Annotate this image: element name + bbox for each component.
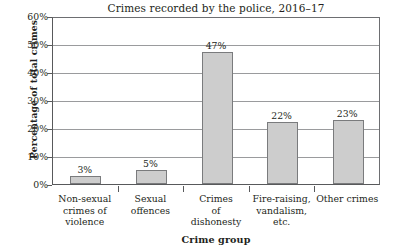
- x-axis-tick-mark: [249, 186, 250, 192]
- bar-chart-figure: Crimes recorded by the police, 2016–17 P…: [0, 0, 394, 251]
- x-axis-category-label: Crimesofdishonesty: [183, 193, 249, 228]
- bar: [333, 120, 364, 184]
- y-axis-title: Percentage of total crimes: [28, 5, 39, 175]
- x-axis-category-line: Sexual: [118, 193, 184, 205]
- y-axis-tick-mark: [47, 157, 52, 158]
- y-axis-tick-label: 50%: [4, 40, 48, 49]
- x-axis-category-line: Fire-raising,: [249, 193, 315, 205]
- y-axis-tick-label: 20%: [4, 124, 48, 133]
- y-axis-tick-mark: [47, 101, 52, 102]
- x-axis-category-line: Crimes: [183, 193, 249, 205]
- y-axis-tick-label: 10%: [4, 152, 48, 161]
- bar-value-label: 22%: [252, 111, 312, 121]
- y-axis-tick-mark: [47, 129, 52, 130]
- x-axis-category-line: etc.: [249, 216, 315, 228]
- x-axis-category-line: crimes of: [52, 205, 118, 217]
- y-axis-tick-mark: [47, 45, 52, 46]
- y-axis-tick-label: 60%: [4, 12, 48, 21]
- x-axis-category-line: Other crimes: [314, 193, 380, 205]
- x-axis-category-label: Sexualoffences: [118, 193, 184, 216]
- x-axis-title: Crime group: [52, 234, 380, 245]
- bar: [136, 170, 167, 184]
- bar-value-label: 3%: [55, 165, 115, 175]
- x-axis-tick-mark: [314, 186, 315, 192]
- x-axis-category-line: vandalism,: [249, 205, 315, 217]
- y-axis-tick-mark: [47, 185, 52, 186]
- y-axis-tick-label: 30%: [4, 96, 48, 105]
- x-axis-category-line: dishonesty: [183, 216, 249, 228]
- x-axis-category-line: of: [183, 205, 249, 217]
- bar-value-label: 23%: [317, 109, 377, 119]
- y-axis-tick-mark: [47, 73, 52, 74]
- x-axis-tick-mark: [183, 186, 184, 192]
- bar-value-label: 47%: [186, 41, 246, 51]
- y-axis-tick-mark: [47, 17, 52, 18]
- bar: [70, 176, 101, 184]
- x-axis-category-label: Non-sexualcrimes ofviolence: [52, 193, 118, 228]
- y-axis-tick-label: 0%: [4, 180, 48, 189]
- bar: [202, 52, 233, 184]
- x-axis-category-line: violence: [52, 216, 118, 228]
- x-axis-category-label: Fire-raising,vandalism,etc.: [249, 193, 315, 228]
- y-axis-tick-label: 40%: [4, 68, 48, 77]
- x-axis-tick-mark: [118, 186, 119, 192]
- chart-title: Crimes recorded by the police, 2016–17: [52, 1, 380, 15]
- x-axis-category-line: Non-sexual: [52, 193, 118, 205]
- bar: [267, 122, 298, 184]
- x-axis-category-label: Other crimes: [314, 193, 380, 205]
- x-axis-category-line: offences: [118, 205, 184, 217]
- bar-value-label: 5%: [120, 159, 180, 169]
